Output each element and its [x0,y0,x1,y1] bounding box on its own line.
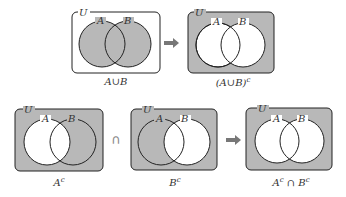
arrow-icon [226,135,242,145]
set-a-label: A [41,113,49,124]
set-b-label: B [180,113,188,124]
caption-intersection-complements: Ac ∩ Bc [266,176,316,188]
caption-b: B [298,177,305,188]
caption-b-sup: c [306,176,310,184]
universe-label: U [24,106,33,115]
venn-union-complement: U A B [186,9,276,75]
venn-b-complement: U A B [129,106,221,174]
venn-intersection-complements: U A B [244,105,336,173]
set-b-label: B [297,113,305,124]
universe-label: U [258,105,267,114]
caption-b-complement: Bc [160,176,190,188]
universe-label: U [195,9,204,18]
caption-sup: c [246,76,250,84]
caption-a-complement: Ac [44,176,74,188]
universe-label: U [143,106,152,115]
set-b-label: B [238,16,246,27]
set-b-label: B [123,15,131,26]
caption-union: A∪B [96,76,136,87]
venn-a-complement: U A B [13,106,105,174]
caption-sup: c [177,176,181,184]
venn-union: U A B [70,9,162,75]
caption-op: ∩ [284,177,299,188]
set-a-label: A [155,113,163,124]
caption-sup: c [61,176,65,184]
arrow-icon [164,38,180,48]
intersect-operator: ∩ [111,132,121,147]
caption-a: A [272,177,279,188]
universe-label: U [79,9,88,18]
caption-union-complement: (A∪B)c [208,76,258,88]
set-a-label: A [272,113,280,124]
set-a-label: A [96,15,104,26]
set-b-label: B [67,113,75,124]
caption-main: (A∪B) [216,77,247,88]
caption-main: A [53,177,60,188]
set-a-label: A [212,16,220,27]
caption-main: B [169,177,176,188]
